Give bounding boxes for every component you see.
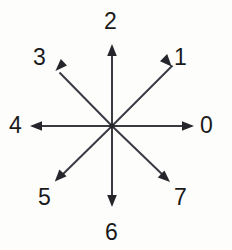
- arrow-southwest-5: [55, 126, 112, 182]
- arrow-shaft-northwest: [60, 73, 113, 127]
- arrow-head-south: [107, 195, 117, 207]
- direction-label-4: 4: [9, 114, 22, 137]
- arrow-head-west: [30, 121, 42, 131]
- arrow-shaft-southeast: [112, 126, 166, 178]
- direction-label-5: 5: [38, 186, 51, 209]
- direction-label-6: 6: [105, 221, 118, 244]
- direction-star-diagram: [0, 0, 232, 250]
- arrow-shaft-southwest: [60, 126, 113, 178]
- center-origin-point: [110, 124, 115, 129]
- direction-label-0: 0: [200, 114, 213, 137]
- direction-label-3: 3: [33, 46, 46, 69]
- arrow-east-0: [112, 121, 194, 131]
- arrow-head-northwest: [55, 59, 67, 71]
- arrow-west-4: [30, 121, 112, 131]
- arrow-head-northeast: [160, 54, 172, 66]
- arrow-south-6: [107, 126, 117, 207]
- arrow-head-east: [182, 121, 194, 131]
- arrow-shaft-northeast: [112, 66, 173, 127]
- direction-label-2: 2: [104, 10, 117, 33]
- direction-label-7: 7: [174, 186, 187, 209]
- arrow-southeast-7: [112, 126, 170, 182]
- arrow-north-2: [107, 44, 117, 126]
- direction-star-figure: 0 1 2 3 4 5 6 7: [0, 0, 232, 250]
- arrow-northwest-3: [55, 59, 112, 126]
- arrow-head-north: [107, 44, 117, 56]
- direction-label-1: 1: [174, 46, 187, 69]
- arrow-northeast-1: [112, 54, 173, 126]
